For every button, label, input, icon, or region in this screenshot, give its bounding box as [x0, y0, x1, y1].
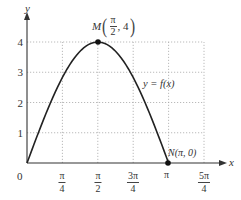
- left-paren: (: [102, 15, 107, 37]
- x-tick-denominator: 4: [202, 183, 207, 194]
- x-tick-pi: π: [164, 170, 169, 180]
- grid-lines: [27, 42, 204, 163]
- y-tick-3: 3: [18, 66, 24, 78]
- x-tick-denominator: 4: [131, 183, 136, 194]
- x-tick-pi-over-4: π 4: [58, 171, 65, 194]
- y-tick-1: 1: [18, 127, 24, 139]
- x-axis-arrow-icon: [219, 160, 227, 166]
- function-label: y = f(x): [143, 79, 175, 90]
- x-tick-numerator: 3π: [127, 171, 139, 183]
- y-tick-2: 2: [18, 97, 24, 109]
- x-tick-denominator: 2: [96, 183, 101, 194]
- x-tick-numerator: π: [58, 171, 65, 183]
- point-m-letter: M: [92, 20, 101, 32]
- x-tick-numerator: π: [94, 171, 101, 183]
- y-tick-4: 4: [18, 36, 24, 48]
- x-tick-numerator: 5π: [198, 171, 210, 183]
- x-axis-label: x: [229, 157, 234, 168]
- x-tick-pi-over-2: π 2: [94, 171, 101, 194]
- y-axis-label: y: [25, 3, 30, 14]
- origin-label: 0: [17, 171, 23, 182]
- point-n-label: N(π, 0): [168, 148, 196, 158]
- x-tick-denominator: 4: [60, 183, 65, 194]
- point-m-marker: [95, 39, 101, 45]
- point-m-x-fraction: π 2: [110, 15, 117, 37]
- x-tick-5pi-over-4: 5π 4: [198, 171, 210, 194]
- point-n-marker: [165, 160, 171, 166]
- right-paren: ): [130, 15, 135, 37]
- point-m-x-denominator: 2: [111, 27, 116, 37]
- point-m-y: , 4: [118, 20, 129, 32]
- x-tick-3pi-over-4: 3π 4: [127, 171, 139, 194]
- point-m-label: M ( π 2 , 4 ): [92, 15, 136, 37]
